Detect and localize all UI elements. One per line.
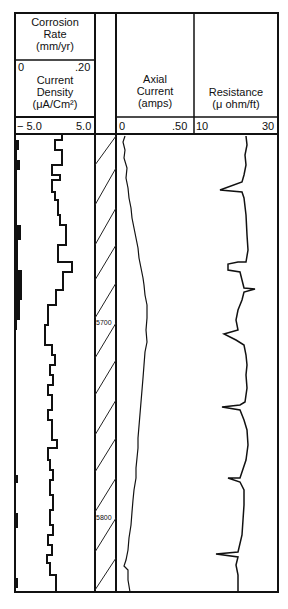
depth-label-5700: 5700	[96, 319, 112, 327]
corrosion-title: Corrosion Rate (mm/yr)	[15, 16, 95, 52]
resistance-min: 10	[196, 120, 208, 132]
current-density-title: Current Density (μA/Cm²)	[15, 74, 95, 110]
axial-min: 0	[119, 120, 125, 132]
current-density-max: 5.0	[76, 120, 91, 132]
depth-label-5800: 5800	[96, 514, 112, 522]
corrosion-max: .20	[75, 61, 90, 73]
axial-title: Axial Current (amps)	[116, 73, 194, 109]
axial-max: .50	[172, 120, 187, 132]
resistance-max: 30	[262, 120, 274, 132]
corrosion-min: 0	[18, 61, 24, 73]
current-density-min: − 5.0	[17, 120, 42, 132]
resistance-title: Resistance (μ ohm/ft)	[194, 86, 278, 110]
